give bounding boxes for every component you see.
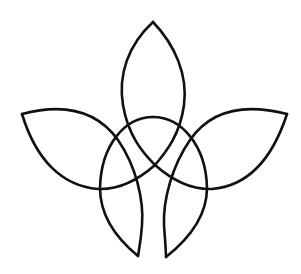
central-ring-left-arc [100,117,153,256]
flower-knot-figure [0,0,301,274]
left-petal-top-edge [22,109,142,256]
flower-knot-drawing [0,0,301,274]
